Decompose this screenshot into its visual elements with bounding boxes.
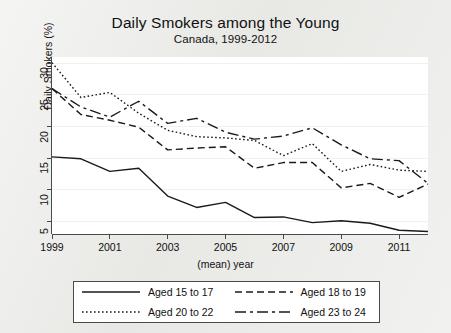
legend-label: Aged 20 to 22: [148, 306, 213, 318]
legend-swatch-longdash: [233, 306, 295, 318]
x-tick-label-2011: 2011: [379, 241, 419, 253]
legend-swatch-dotted: [80, 306, 142, 318]
screenshot-root: Daily Smokers among the Young Canada, 19…: [0, 0, 451, 333]
x-tick-label-2007: 2007: [263, 241, 303, 253]
legend-entry-aged-23-to-24: Aged 23 to 24: [227, 302, 380, 322]
legend-label: Aged 18 to 19: [301, 286, 366, 298]
y-tick-label-25: 25: [38, 94, 50, 116]
x-tick-label-2001: 2001: [90, 241, 130, 253]
legend-label: Aged 23 to 24: [301, 306, 366, 318]
y-tick-label-5: 5: [38, 220, 50, 242]
legend-swatch-solid: [80, 286, 142, 298]
legend-row: Aged 20 to 22 Aged 23 to 24: [74, 302, 379, 322]
x-tick-label-2005: 2005: [206, 241, 246, 253]
legend-label: Aged 15 to 17: [148, 286, 213, 298]
legend-entry-aged-18-to-19: Aged 18 to 19: [227, 282, 380, 302]
legend-entry-aged-15-to-17: Aged 15 to 17: [74, 282, 227, 302]
x-axis-title: (mean) year: [0, 258, 451, 270]
y-tick-label-20: 20: [38, 126, 50, 148]
legend-row: Aged 15 to 17 Aged 18 to 19: [74, 282, 379, 302]
y-tick-label-10: 10: [38, 189, 50, 211]
x-tick-label-2009: 2009: [321, 241, 361, 253]
tick-marks: [47, 63, 399, 239]
y-tick-label-30: 30: [38, 62, 50, 84]
chart-figure: Daily Smokers among the Young Canada, 19…: [0, 0, 451, 333]
axis-lines: [52, 57, 429, 235]
chart-legend: Aged 15 to 17 Aged 18 to 19 Aged 20 to 2…: [73, 281, 380, 323]
y-tick-label-15: 15: [38, 157, 50, 179]
x-tick-label-2003: 2003: [148, 241, 188, 253]
x-tick-label-1999: 1999: [32, 241, 72, 253]
legend-entry-aged-20-to-22: Aged 20 to 22: [74, 302, 227, 322]
legend-swatch-dashed: [233, 286, 295, 298]
